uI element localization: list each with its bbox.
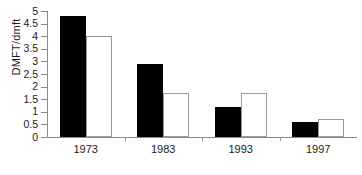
x-axis-category-label: 1973 [47,144,125,155]
x-axis-category-label: 1993 [202,144,280,155]
y-axis-tick-label: 5 [4,6,38,17]
y-axis-tick-label: 3 [4,56,38,67]
y-axis-tick-label: 4 [4,31,38,42]
bar-series-a [60,16,86,137]
y-axis-tick-label: 0 [4,132,38,143]
y-axis-tick-label: 2 [4,81,38,92]
x-axis-line [41,137,357,138]
y-axis-tick-label: 1 [4,106,38,117]
x-axis-category-label: 1983 [125,144,203,155]
x-axis-separator-tick [280,137,281,141]
bar-group [215,11,267,137]
bar-group [292,11,344,137]
bar-group [60,11,112,137]
bar-series-a [137,64,163,137]
bar-series-b [86,36,112,137]
x-axis-category-label: 1997 [280,144,358,155]
bar-series-b [241,93,267,137]
x-axis-separator-tick [125,137,126,141]
y-axis-tick-label: 1.5 [4,94,38,105]
bar-group [137,11,189,137]
bar-series-a [215,107,241,137]
y-axis-tick [41,137,47,138]
bar-series-a [292,122,318,137]
y-axis-tick-label: 0.5 [4,119,38,130]
bar-chart: DMFT/dmft 00.511.522.533.544.55 19731983… [0,0,362,175]
bar-series-b [318,119,344,137]
x-axis-separator-tick [202,137,203,141]
y-axis-tick-label: 4.5 [4,18,38,29]
y-axis-tick-label: 3.5 [4,43,38,54]
bar-series-b [163,93,189,137]
y-axis-tick-label: 2.5 [4,69,38,80]
plot-area [47,11,357,137]
